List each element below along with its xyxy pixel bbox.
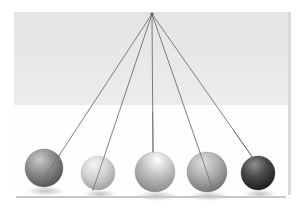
background-band: [14, 12, 288, 105]
cradle-canvas: [0, 0, 299, 212]
right-edge-strip: [288, 12, 291, 195]
newtons-cradle-illustration: [0, 0, 299, 212]
sphere-shadow-1: [26, 186, 66, 196]
pivot-point: [150, 12, 153, 15]
